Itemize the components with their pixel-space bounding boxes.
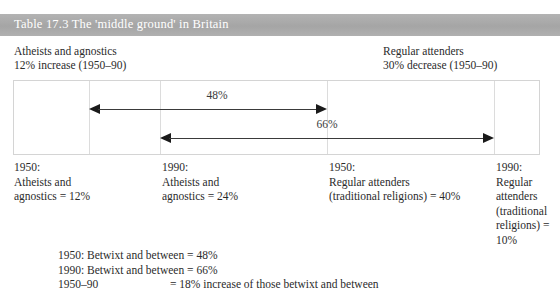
column-0-line1: 1950: [14, 160, 154, 175]
column-1-line1: 1990: [162, 160, 312, 175]
summary-row-2: 1990: Betwixt and between = 66% [58, 263, 217, 278]
column-1-line2: Atheists and [162, 175, 312, 190]
column-0-line2: Atheists and [14, 175, 154, 190]
table-title: Table 17.3 The 'middle ground' in Britai… [14, 17, 229, 32]
chart-frame: 48% 66% [13, 80, 540, 155]
column-2-line3: (traditional religions) = 40% [329, 189, 499, 204]
summary-row-3: 1950–90 = 18% increase of those betwixt … [58, 277, 217, 292]
column-3-line2: Regular [496, 175, 558, 190]
span-66-label: 66% [316, 118, 337, 130]
column-caption-atheists-1950: 1950: Atheists and agnostics = 12% [14, 160, 154, 204]
summary-row-1-label: 1950: Betwixt and between = 48% [58, 249, 217, 261]
column-0-line3: agnostics = 12% [14, 189, 154, 204]
caption-atheists-line1: Atheists and agnostics [14, 44, 126, 58]
span-48-line [98, 109, 319, 110]
column-3-line3: attenders [496, 189, 558, 204]
column-3-line4: (traditional [496, 204, 558, 219]
column-caption-attenders-1950: 1950: Regular attenders (traditional rel… [329, 160, 499, 204]
caption-attenders-line1: Regular attenders [383, 44, 497, 58]
column-2-line1: 1950: [329, 160, 499, 175]
column-2-line2: Regular attenders [329, 175, 499, 190]
summary-block: 1950: Betwixt and between = 48% 1990: Be… [58, 248, 217, 292]
span-66-arrow: 66% [14, 131, 539, 145]
summary-row-1: 1950: Betwixt and between = 48% [58, 248, 217, 263]
summary-row-3-value: = 18% increase of those betwixt and betw… [170, 277, 379, 292]
span-48-arrowhead-right-icon [316, 104, 327, 114]
column-caption-atheists-1990: 1990: Atheists and agnostics = 24% [162, 160, 312, 204]
caption-attenders: Regular attenders 30% decrease (1950–90) [383, 44, 497, 72]
span-48-label: 48% [206, 89, 227, 101]
span-48-arrow: 48% [14, 102, 539, 116]
column-1-line3: agnostics = 24% [162, 189, 312, 204]
span-66-arrowhead-right-icon [483, 133, 494, 143]
column-3-line1: 1990: [496, 160, 558, 175]
column-caption-attenders-1990: 1990: Regular attenders (traditional rel… [496, 160, 558, 247]
column-3-line6: 10% [496, 233, 558, 248]
caption-atheists-line2: 12% increase (1950–90) [14, 58, 126, 72]
column-3-line5: religions) = [496, 218, 558, 233]
caption-attenders-line2: 30% decrease (1950–90) [383, 58, 497, 72]
caption-atheists: Atheists and agnostics 12% increase (195… [14, 44, 126, 72]
span-66-line [169, 138, 486, 139]
summary-row-3-label: 1950–90 [58, 278, 98, 290]
summary-row-2-label: 1990: Betwixt and between = 66% [58, 264, 217, 276]
